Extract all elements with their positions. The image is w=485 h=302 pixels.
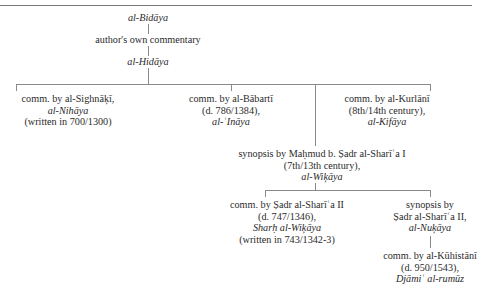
node-title: al-Bidāya [128, 12, 168, 24]
node-note: (written in 743/1342-3) [230, 234, 344, 246]
node-wikaya: synopsis by Maḥmud b. Ṣadr al-Sharīʿa I … [238, 148, 405, 183]
node-label: synopsis by Maḥmud b. Ṣadr al-Sharīʿa I [238, 148, 405, 160]
connector-line [148, 24, 149, 34]
connector-line [430, 236, 431, 248]
connector-line [430, 84, 431, 91]
node-kurlani: comm. by al-Kurlānī (8th/14th century), … [344, 93, 429, 128]
connector-line [231, 84, 232, 91]
node-sharh-al-wikaya: comm. by Ṣadr al-Sharīʿa II (d. 747/1346… [230, 199, 344, 245]
node-label: comm. by Ṣadr al-Sharīʿa II [230, 199, 344, 211]
node-label: comm. by al-Bābartī [189, 93, 273, 105]
connector-line [16, 84, 17, 91]
node-al-hidaya: al-Hidāya [127, 56, 168, 68]
connector-line [315, 84, 316, 146]
diagram-canvas: al-Bidāya author's own commentary al-Hid… [0, 0, 485, 302]
node-label: synopsis by [393, 199, 466, 211]
connector-line [315, 183, 316, 190]
connector-line [430, 190, 431, 197]
node-nukaya: synopsis by Ṣadr al-Sharīʿa II, al-Nuķāy… [393, 199, 466, 234]
node-label: author's own commentary [95, 34, 200, 46]
node-sighnaki: comm. by al-Sighnāķī, al-Nihāya (written… [22, 93, 115, 128]
branch-line [16, 84, 431, 85]
node-authors-commentary: author's own commentary [95, 34, 200, 46]
top-rule [0, 5, 472, 6]
node-babarti: comm. by al-Bābartī (d. 786/1384), al-ʿI… [189, 93, 273, 128]
connector-line [265, 190, 266, 197]
node-title: Sharḥ al-Wiķāya [230, 222, 344, 234]
node-title: al-Hidāya [127, 56, 168, 68]
node-note: (written in 700/1300) [22, 116, 115, 128]
node-label: comm. by al-Sighnāķī, [22, 93, 115, 105]
node-date: (d. 950/1543), [383, 262, 477, 274]
node-label: comm. by al-Kurlānī [344, 93, 429, 105]
node-date: (d. 747/1346), [230, 211, 344, 223]
node-al-bidaya: al-Bidāya [128, 12, 168, 24]
node-label: comm. by al-Kūhistānī [383, 250, 477, 262]
node-title: al-Kifāya [344, 116, 429, 128]
connector-line [148, 46, 149, 56]
node-title: al-Nihāya [22, 105, 115, 117]
node-author: Ṣadr al-Sharīʿa II, [393, 211, 466, 223]
connector-line [148, 68, 149, 84]
node-title: al-ʿInāya [189, 116, 273, 128]
node-title: Djāmiʿ al-rumūz [383, 273, 477, 285]
node-kuhistani: comm. by al-Kūhistānī (d. 950/1543), Djā… [383, 250, 477, 285]
branch-line [265, 190, 431, 191]
node-title: al-Nuķāya [393, 222, 466, 234]
node-date: (8th/14th century), [344, 105, 429, 117]
node-date: (7th/13th century), [238, 160, 405, 172]
node-title: al-Wiķāya [238, 171, 405, 183]
node-date: (d. 786/1384), [189, 105, 273, 117]
